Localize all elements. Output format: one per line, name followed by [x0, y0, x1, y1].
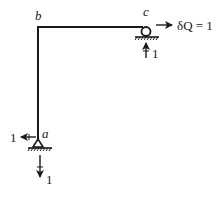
reaction-label-a-horizontal: 1 — [10, 130, 17, 145]
reaction-label-c-vertical: 1 — [152, 46, 159, 61]
node-label-b: b — [35, 8, 42, 23]
roller-support-icon — [135, 27, 159, 40]
node-label-a: a — [42, 126, 49, 141]
node-label-c: c — [143, 4, 149, 19]
load-label-dQ: δQ = 1 — [177, 18, 213, 33]
frame-diagram: b c a δQ = 1 1 — [0, 0, 218, 202]
frame-members — [37, 27, 143, 139]
reaction-label-a-vertical: 1 — [46, 172, 53, 187]
